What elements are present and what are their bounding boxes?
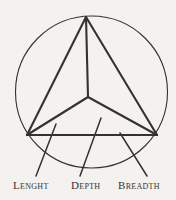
tetrahedron-diagram bbox=[0, 0, 176, 200]
edge-apex-to-right bbox=[86, 17, 157, 135]
dimension-label-row: Lenght Depth Breadth bbox=[0, 178, 176, 194]
label-breadth: Breadth bbox=[118, 178, 160, 192]
label-lenght: Lenght bbox=[13, 178, 49, 192]
edge-apex-to-center bbox=[86, 17, 88, 97]
leader-line-breadth bbox=[120, 133, 147, 176]
figure-container: Lenght Depth Breadth bbox=[0, 0, 176, 200]
leader-line-lenght bbox=[36, 124, 56, 176]
label-depth: Depth bbox=[71, 178, 100, 192]
